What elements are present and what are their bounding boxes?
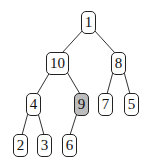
tree-node-8: 8: [111, 52, 126, 75]
node-label: 4: [30, 96, 38, 113]
node-label: 9: [78, 96, 86, 113]
node-label: 6: [66, 137, 74, 154]
node-label: 5: [128, 96, 136, 113]
tree-node-7: 7: [98, 93, 113, 116]
tree-node-6: 6: [62, 134, 77, 157]
node-label: 10: [50, 55, 65, 72]
tree-node-3: 3: [37, 134, 52, 157]
node-label: 2: [17, 137, 25, 154]
edge-4-2: [22, 113, 28, 135]
edge-8-5: [124, 72, 130, 94]
edge-1-10: [62, 30, 83, 53]
edge-8-7: [107, 72, 113, 94]
edge-10-4: [37, 72, 50, 94]
tree-node-9-highlighted: 9: [74, 93, 89, 116]
tree-node-10: 10: [46, 52, 69, 75]
edge-1-8: [94, 30, 115, 53]
tree-node-4: 4: [26, 93, 41, 116]
tree-node-2: 2: [13, 134, 28, 157]
node-label: 8: [115, 55, 123, 72]
node-label: 7: [102, 96, 110, 113]
tree-node-5: 5: [124, 93, 139, 116]
node-label: 1: [85, 14, 93, 31]
edge-9-6: [70, 113, 77, 135]
tree-node-1: 1: [81, 11, 96, 34]
edge-10-9: [67, 72, 80, 94]
node-label: 3: [41, 137, 49, 154]
edge-4-3: [38, 113, 44, 135]
